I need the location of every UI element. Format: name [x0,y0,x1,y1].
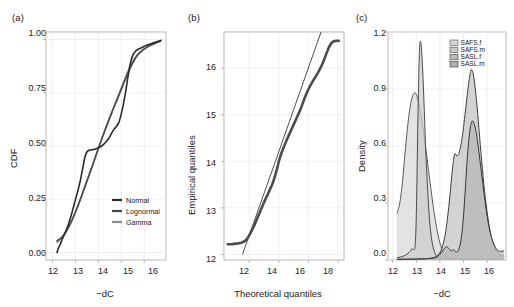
svg-text:Normal: Normal [126,196,150,205]
svg-text:Lognormal: Lognormal [126,207,160,216]
svg-text:Gamma: Gamma [126,218,152,227]
panel-c: (c) Density −dC 1.2 0.9 0.6 0.3 0.0 12 1… [352,0,514,307]
panel-a: (a) CDF −dC 1.00 0.75 0.50 0.25 0.00 12 … [0,0,180,307]
figure-container: (a) CDF −dC 1.00 0.75 0.50 0.25 0.00 12 … [0,0,514,307]
svg-text:SASL.m: SASL.m [461,60,486,67]
panel-a-plot: NormalLognormalGamma [0,0,180,307]
svg-text:SASL.f: SASL.f [461,53,482,60]
panel-b: (b) Empirical quantiles Theoretical quan… [180,0,352,307]
svg-text:SAFS.f: SAFS.f [461,39,482,46]
panel-b-plot [180,0,352,307]
panel-c-plot: SAFS.fSAFS.mSASL.fSASL.m [352,0,514,307]
svg-text:SAFS.m: SAFS.m [461,46,486,53]
